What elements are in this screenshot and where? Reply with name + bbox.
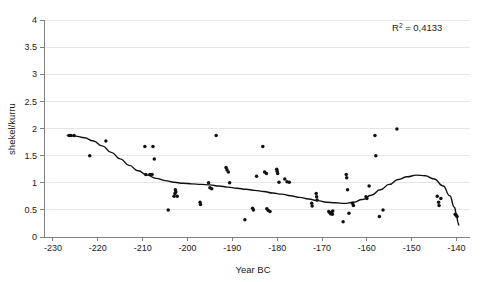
x-tick-label: -220 (89, 243, 107, 253)
y-tick-label: 0 (32, 232, 37, 242)
data-point (104, 139, 108, 143)
x-tick-label: -180 (268, 243, 286, 253)
trendline-curve (67, 136, 458, 226)
x-axis-ticks: -230-220-210-200-190-180-170-160-150-140 (44, 237, 466, 253)
data-point (166, 208, 170, 212)
data-point (378, 215, 382, 219)
data-point (175, 195, 179, 199)
gridlines (44, 20, 470, 237)
x-tick-label: -160 (358, 243, 376, 253)
y-tick-label: 0.5 (24, 205, 37, 215)
x-tick-label: -230 (44, 243, 62, 253)
y-tick-label: 2.5 (24, 97, 37, 107)
data-point (252, 208, 256, 212)
data-point (153, 157, 157, 161)
data-point (172, 195, 176, 199)
y-tick-label: 1 (32, 178, 37, 188)
chart-container: 00.511.522.533.54 -230-220-210-200-190-1… (0, 0, 487, 282)
x-tick-label: -190 (223, 243, 241, 253)
data-point (227, 170, 231, 174)
data-point (436, 195, 440, 199)
r-squared-annotation: R2 = 0,4133 (392, 22, 442, 34)
scatter-plot: 00.511.522.533.54 -230-220-210-200-190-1… (0, 0, 487, 282)
data-points (67, 127, 458, 223)
y-tick-label: 3.5 (24, 42, 37, 52)
data-point (268, 210, 272, 214)
data-point (88, 154, 92, 158)
data-point (373, 134, 377, 138)
data-point (395, 127, 399, 131)
data-point (344, 173, 348, 177)
y-tick-label: 4 (32, 15, 37, 25)
data-point (437, 204, 441, 208)
data-point (207, 181, 211, 185)
data-point (151, 145, 155, 149)
data-point (199, 203, 203, 207)
x-tick-label: -200 (178, 243, 196, 253)
y-axis-ticks: 00.511.522.533.54 (24, 15, 44, 242)
r-squared-value: = 0,4133 (403, 22, 443, 33)
data-point (331, 212, 335, 216)
data-point (381, 208, 385, 212)
x-tick-label: -140 (448, 243, 466, 253)
y-tick-label: 1.5 (24, 151, 37, 161)
x-tick-label: -170 (313, 243, 331, 253)
data-point (143, 145, 147, 149)
data-point (214, 134, 218, 138)
y-tick-label: 3 (32, 69, 37, 79)
data-point (439, 197, 443, 201)
data-point (228, 181, 232, 185)
data-point (437, 201, 441, 205)
y-tick-label: 2 (32, 124, 37, 134)
data-point (288, 180, 292, 184)
data-point (277, 180, 281, 184)
x-tick-label: -210 (134, 243, 152, 253)
data-point (315, 195, 319, 199)
data-point (243, 218, 247, 222)
x-tick-label: -150 (403, 243, 421, 253)
x-axis-title: Year BC (235, 264, 270, 275)
data-point (346, 188, 350, 192)
y-axis-title: shekel/kurru (6, 103, 17, 155)
data-point (276, 172, 280, 176)
data-point (255, 174, 259, 178)
data-point (283, 177, 287, 181)
data-point (347, 211, 351, 215)
data-point (374, 154, 378, 158)
data-point (265, 172, 269, 176)
data-point (352, 204, 356, 208)
data-point (314, 192, 318, 196)
data-point (331, 209, 335, 213)
data-point (310, 204, 314, 208)
data-point (367, 184, 371, 188)
data-point (261, 145, 265, 149)
data-point (210, 187, 214, 191)
data-point (341, 220, 345, 224)
data-point (345, 176, 349, 180)
